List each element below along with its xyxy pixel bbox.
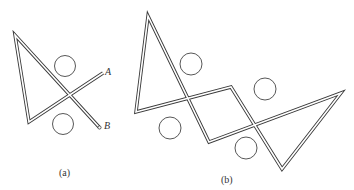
- circle-upper-a: [55, 56, 76, 77]
- panel-b: [136, 16, 341, 169]
- caption-a: (a): [59, 167, 70, 178]
- label-endpoint-a: A: [105, 66, 111, 77]
- circle-lower-a: [53, 114, 74, 135]
- circle-bottom-left-b: [159, 117, 181, 139]
- circle-top-right-b: [254, 78, 276, 100]
- caption-b: (b): [221, 174, 233, 185]
- circle-top-left-b: [180, 53, 202, 75]
- circle-bottom-right-b: [235, 137, 257, 159]
- wire-b: [136, 16, 341, 169]
- wire-a: [15, 35, 103, 127]
- endpoint-b-terminal: [98, 126, 101, 129]
- label-endpoint-b: B: [104, 120, 110, 131]
- diagram-canvas: .wire-outer { fill: none; stroke: #3a3a3…: [0, 0, 354, 190]
- panel-a: [15, 35, 103, 135]
